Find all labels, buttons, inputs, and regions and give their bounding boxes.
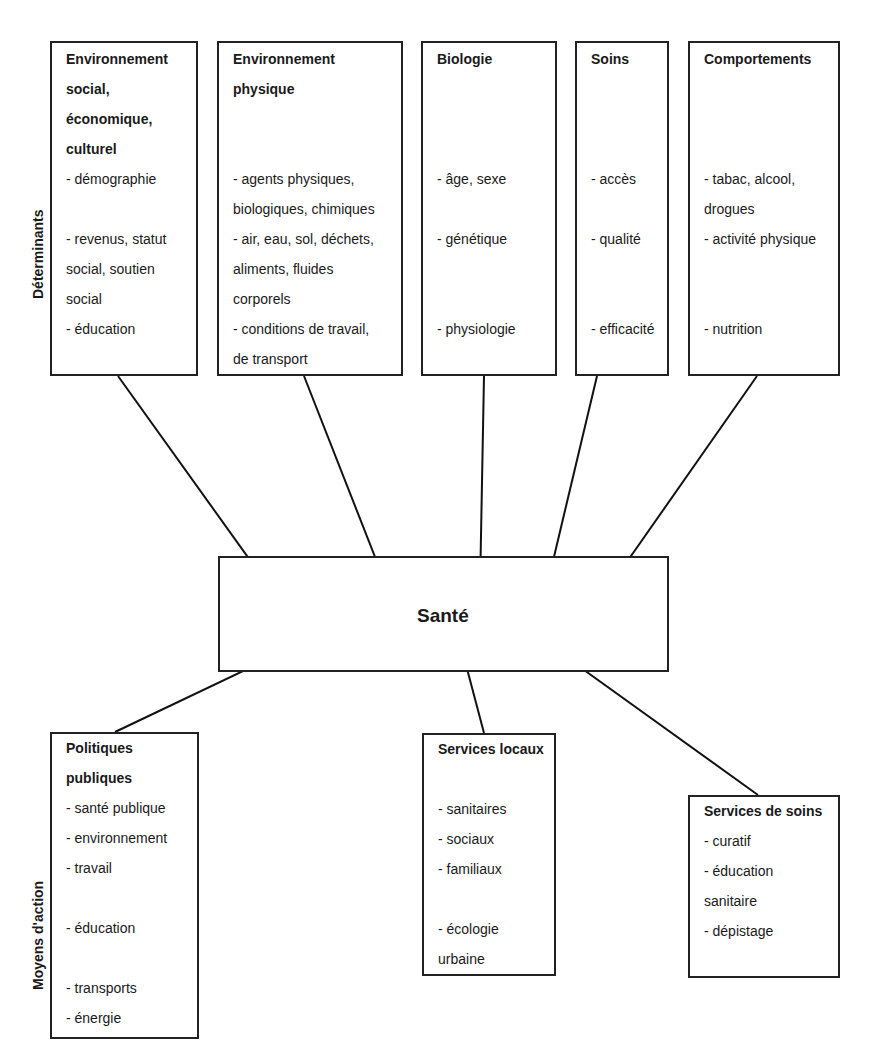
box-item: social	[52, 284, 210, 314]
box-item: - génétique	[423, 224, 569, 254]
box-item: - nutrition	[690, 314, 852, 344]
box-title-line: économique,	[52, 104, 210, 134]
moyen-box-services-locaux: Services locaux- sanitaires- sociaux- fa…	[422, 733, 556, 976]
box-title-line: Comportements	[690, 44, 852, 74]
box-item: - air, eau, sol, déchets,	[219, 224, 415, 254]
determinant-box-environnement-social: Environnementsocial,économique,culturel-…	[50, 41, 198, 376]
determinant-box-biologie: Biologie- âge, sexe- génétique- physiolo…	[421, 41, 557, 376]
box-item: - tabac, alcool,	[690, 164, 852, 194]
box-item: drogues	[690, 194, 852, 224]
box-item: corporels	[219, 284, 415, 314]
box-item: - familiaux	[424, 854, 568, 884]
box-item: - conditions de travail,	[219, 314, 415, 344]
box-item: - écologie	[424, 914, 568, 944]
box-title-line: Services locaux	[424, 734, 568, 764]
box-item: - éducation	[52, 314, 210, 344]
box-title-line: Biologie	[423, 44, 569, 74]
box-item: - qualité	[577, 224, 681, 254]
box-title-line: physique	[219, 74, 415, 104]
box-item: - âge, sexe	[423, 164, 569, 194]
box-title-line: Soins	[577, 44, 681, 74]
box-item: - démographie	[52, 164, 210, 194]
box-item: sanitaire	[690, 886, 852, 916]
arrow-determinant-3-to-sante	[548, 376, 597, 582]
sante-label: Santé	[417, 605, 469, 627]
determinant-box-comportements: Comportements- tabac, alcool,drogues- ac…	[688, 41, 840, 376]
sante-box: Santé	[218, 556, 669, 672]
moyen-box-politiques-publiques: Politiquespubliques- santé publique- env…	[50, 732, 199, 1039]
box-title-line: Services de soins	[690, 796, 852, 826]
box-title-line: social,	[52, 74, 210, 104]
side-label-determinants: Déterminants	[30, 210, 46, 299]
box-item: - environnement	[52, 823, 211, 853]
side-label-moyens-action: Moyens d'action	[30, 881, 46, 990]
box-item: - dépistage	[690, 916, 852, 946]
box-item: - efficacité	[577, 314, 681, 344]
box-item: - santé publique	[52, 793, 211, 823]
determinant-box-soins: Soins- accès- qualité- efficacité	[575, 41, 669, 376]
box-item: - agents physiques,	[219, 164, 415, 194]
box-item: - éducation	[690, 856, 852, 886]
box-item: urbaine	[424, 944, 568, 974]
box-item: - éducation	[52, 913, 211, 943]
box-item: aliments, fluides	[219, 254, 415, 284]
arrow-moyen-2-to-sante	[559, 652, 758, 795]
box-item: - revenus, statut	[52, 224, 210, 254]
box-item: - curatif	[690, 826, 852, 856]
determinant-box-environnement-physique: Environnementphysique- agents physiques,…	[217, 41, 403, 376]
box-item: biologiques, chimiques	[219, 194, 415, 224]
box-item: - activité physique	[690, 224, 852, 254]
box-item: social, soutien	[52, 254, 210, 284]
box-item: - sanitaires	[424, 794, 568, 824]
box-item: de transport	[219, 344, 415, 374]
box-title-line: Politiques	[52, 733, 211, 763]
box-title-line: Environnement	[52, 44, 210, 74]
box-title-line: Environnement	[219, 44, 415, 74]
box-item: - énergie	[52, 1003, 211, 1033]
box-title-line: publiques	[52, 763, 211, 793]
box-item: - sociaux	[424, 824, 568, 854]
moyen-box-services-de-soins: Services de soins- curatif- éducationsan…	[688, 795, 840, 978]
box-item: - transports	[52, 973, 211, 1003]
box-item: - physiologie	[423, 314, 569, 344]
box-title-line: culturel	[52, 134, 210, 164]
box-item: - travail	[52, 853, 211, 883]
box-item: - accès	[577, 164, 681, 194]
